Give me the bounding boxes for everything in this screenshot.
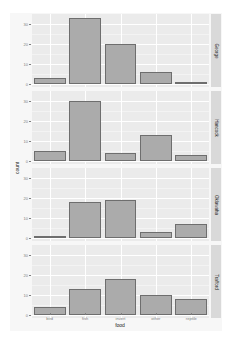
x-tick-label: other (141, 316, 171, 321)
y-tick-label: 30 (14, 176, 28, 181)
y-tick-mark (29, 84, 31, 85)
x-tick-label: bird (35, 316, 65, 321)
y-tick-mark (29, 198, 31, 199)
bar-hancock-other (140, 135, 172, 161)
y-tick-mark (29, 44, 31, 45)
y-tick-mark (29, 64, 31, 65)
bar-trafford-other (140, 295, 172, 315)
bar-oklawaha-bird (34, 236, 66, 238)
y-tick-label: 30 (14, 253, 28, 258)
facet-strip-oklawaha: Oklawaha (211, 168, 221, 241)
vertical-gridline (191, 14, 192, 87)
y-tick-label: 0 (14, 236, 28, 241)
y-tick-mark (29, 275, 31, 276)
bar-oklawaha-reptile (175, 224, 207, 238)
bar-oklawaha-fish (69, 202, 101, 238)
y-tick-label: 0 (14, 82, 28, 87)
bar-trafford-fish (69, 289, 101, 315)
bar-george-bird (34, 78, 66, 84)
facet-panel-george (32, 14, 209, 87)
facet-panel-hancock (32, 91, 209, 164)
bar-hancock-bird (34, 151, 66, 161)
bar-george-other (140, 72, 172, 84)
y-tick-label: 20 (14, 119, 28, 124)
bar-george-invert (105, 44, 137, 84)
y-tick-label: 0 (14, 313, 28, 318)
y-tick-mark (29, 24, 31, 25)
facet-strip-hancock: Hancock (211, 91, 221, 164)
facet-strip-label: Oklawaha (214, 194, 219, 214)
y-tick-mark (29, 161, 31, 162)
bar-hancock-fish (69, 101, 101, 161)
bar-hancock-invert (105, 153, 137, 161)
x-tick-mark (50, 313, 51, 315)
x-tick-label: fish (70, 316, 100, 321)
y-tick-label: 10 (14, 293, 28, 298)
bar-george-reptile (175, 82, 207, 84)
y-tick-mark (29, 218, 31, 219)
x-tick-mark (156, 313, 157, 315)
vertical-gridline (191, 91, 192, 164)
x-tick-label: reptile (176, 316, 206, 321)
bar-oklawaha-invert (105, 200, 137, 238)
y-axis-title: count (14, 162, 20, 174)
x-tick-mark (121, 313, 122, 315)
y-tick-mark (29, 238, 31, 239)
facet-strip-george: George (211, 14, 221, 87)
bar-trafford-invert (105, 279, 137, 315)
bar-hancock-reptile (175, 155, 207, 161)
y-tick-mark (29, 101, 31, 102)
facet-panel-oklawaha (32, 168, 209, 241)
facet-strip-label: George (214, 43, 219, 58)
y-tick-label: 30 (14, 99, 28, 104)
y-tick-mark (29, 295, 31, 296)
facet-strip-label: Hancock (214, 119, 219, 137)
x-axis-title: food (105, 322, 135, 328)
x-tick-mark (85, 313, 86, 315)
y-tick-label: 10 (14, 216, 28, 221)
facet-strip-label: Trafford (214, 274, 219, 290)
x-tick-mark (191, 313, 192, 315)
y-tick-label: 20 (14, 196, 28, 201)
y-tick-mark (29, 141, 31, 142)
y-tick-mark (29, 121, 31, 122)
y-tick-label: 30 (14, 22, 28, 27)
y-tick-label: 20 (14, 42, 28, 47)
vertical-gridline (50, 168, 51, 241)
y-tick-label: 10 (14, 62, 28, 67)
facet-strip-trafford: Trafford (211, 245, 221, 318)
facet-panel-trafford (32, 245, 209, 318)
y-tick-mark (29, 315, 31, 316)
vertical-gridline (156, 168, 157, 241)
bar-george-fish (69, 18, 101, 84)
bar-oklawaha-other (140, 232, 172, 238)
vertical-gridline (50, 14, 51, 87)
y-tick-mark (29, 178, 31, 179)
y-tick-label: 10 (14, 139, 28, 144)
x-tick-label: invert (106, 316, 136, 321)
y-tick-mark (29, 255, 31, 256)
y-tick-label: 20 (14, 273, 28, 278)
